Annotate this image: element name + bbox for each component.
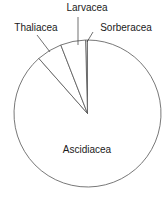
pie-chart: Larvacea Thaliacea Sorberacea Ascidiacea	[0, 0, 168, 197]
slice-label-thaliacea: Thaliacea	[14, 22, 57, 33]
slice-label-sorberacea: Sorberacea	[100, 22, 152, 33]
slice-label-larvacea: Larvacea	[66, 2, 107, 13]
slice-label-ascidiacea: Ascidiacea	[63, 144, 111, 155]
leader-line-thaliacea	[37, 35, 50, 52]
pie-slices	[14, 40, 161, 187]
